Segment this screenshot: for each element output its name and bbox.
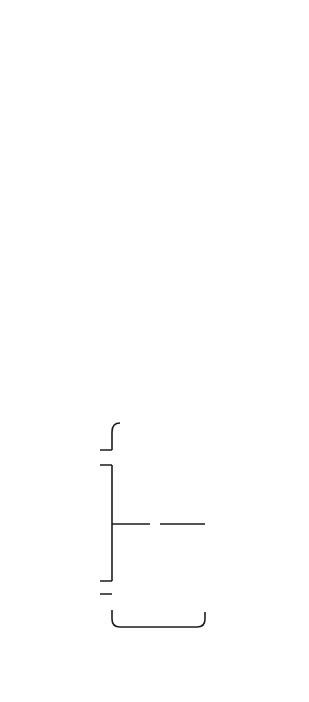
figure-canvas — [0, 0, 309, 702]
figure-rotated-stage — [0, 0, 309, 702]
